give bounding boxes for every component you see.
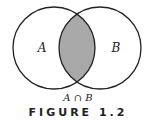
figure-title: FIGURE 1.2 <box>0 106 156 119</box>
set-b-label: B <box>111 41 121 55</box>
set-a-label: A <box>37 41 47 55</box>
diagram-caption: A ∩ B <box>0 92 156 103</box>
